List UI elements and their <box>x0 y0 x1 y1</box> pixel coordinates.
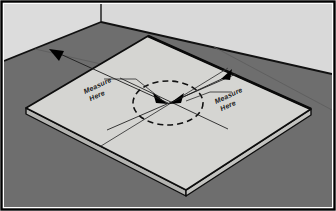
diagram-canvas: Measure Here Measure Here <box>0 0 336 211</box>
diagram-figure: Measure Here Measure Here <box>0 0 336 211</box>
